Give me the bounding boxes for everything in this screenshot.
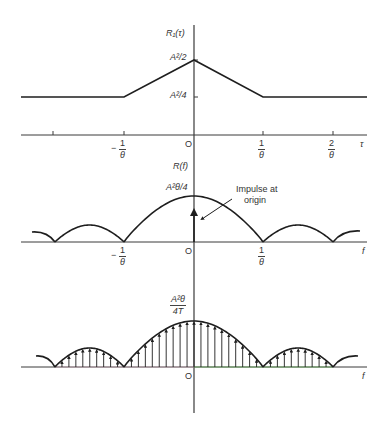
- side-lobe: [55, 225, 124, 242]
- left-edge-lobe: [36, 356, 55, 367]
- top-tick-label-neg1: 1 θ: [119, 139, 126, 160]
- top-tick-neg-sign: −: [111, 144, 116, 153]
- middle-tick-label-1: 1 θ: [258, 246, 265, 267]
- impulse-annotation-line1: Impulse at: [236, 185, 278, 194]
- impulse-annotation-line2: origin: [244, 196, 266, 205]
- side-lobe: [263, 225, 333, 242]
- right-edge-lobe: [333, 231, 360, 242]
- middle-ylabel: R(f): [173, 162, 188, 171]
- middle-tick-neg-sign: −: [111, 251, 116, 260]
- middle-peak-label: A²θ/4: [166, 183, 187, 192]
- top-xlabel: τ: [360, 140, 363, 149]
- middle-xlabel: f: [362, 247, 365, 256]
- spectral-figure: [0, 0, 391, 432]
- middle-origin-label: O: [185, 247, 192, 256]
- top-floor-label: A²/4: [170, 91, 187, 100]
- top-tick-label-2: 2 θ: [328, 139, 335, 160]
- top-origin-label: O: [185, 140, 192, 149]
- top-tick-label-1: 1 θ: [258, 139, 265, 160]
- left-edge-lobe: [32, 232, 55, 242]
- top-ylabel: R₁(τ): [166, 29, 185, 38]
- bottom-xlabel: f: [362, 372, 365, 381]
- top-peak-label: A²/2: [170, 53, 187, 62]
- bottom-peak-label: A²θ 4T: [170, 295, 186, 316]
- middle-tick-label-neg1: 1 θ: [119, 246, 126, 267]
- line-spectrum-plot: [21, 321, 367, 367]
- right-edge-lobe: [333, 356, 358, 367]
- bottom-origin-label: O: [185, 372, 192, 381]
